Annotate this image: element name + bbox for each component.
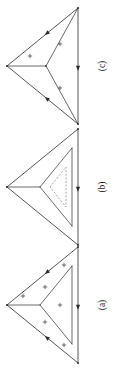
triangle-vertex-dot xyxy=(6,186,8,188)
figure-root: (c)(b)(a) xyxy=(0,0,121,388)
panel-label-b: (b) xyxy=(97,181,108,192)
triangle-vertex-dot xyxy=(6,65,8,67)
panel-label-a: (a) xyxy=(97,300,108,311)
center-node-dot xyxy=(45,65,47,67)
triangle-vertex-dot xyxy=(77,123,79,125)
triangle-vertex-dot xyxy=(77,244,79,246)
triangle-vertex-dot xyxy=(77,7,79,9)
triangle-subdivision-figure: (c)(b)(a) xyxy=(0,0,121,388)
triangle-vertex-dot xyxy=(77,362,79,364)
triangle-vertex-dot xyxy=(77,246,79,248)
panel-label-c: (c) xyxy=(97,61,108,72)
triangle-vertex-dot xyxy=(77,128,79,130)
triangle-vertex-dot xyxy=(6,304,8,306)
